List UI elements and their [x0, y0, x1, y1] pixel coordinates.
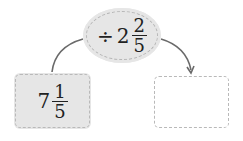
left-connector — [52, 39, 83, 72]
input-numerator: 1 — [52, 82, 67, 102]
divisor-fraction: 2 5 — [132, 16, 147, 55]
answer-box[interactable] — [153, 75, 230, 129]
input-denominator: 5 — [54, 102, 65, 121]
right-connector — [161, 39, 191, 70]
divisor-numerator: 2 — [132, 16, 147, 36]
divisor-denominator: 5 — [134, 36, 145, 55]
input-box: 7 1 5 — [14, 73, 91, 129]
input-whole: 7 — [37, 89, 50, 113]
operation-bubble: ÷ 2 2 5 — [83, 8, 161, 63]
input-fraction: 1 5 — [52, 82, 67, 121]
divide-operator: ÷ — [97, 24, 114, 48]
divisor-whole: 2 — [117, 24, 130, 48]
